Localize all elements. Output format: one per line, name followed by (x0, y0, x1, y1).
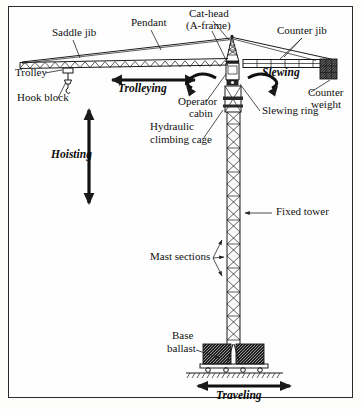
label-counter-jib: Counter jib (277, 24, 327, 36)
label-counter-wt-line2: weight (311, 98, 341, 110)
label-cat-head-line1: Cat-head (189, 7, 229, 19)
ground-hatch (186, 373, 283, 378)
base-ballast-blk (200, 344, 268, 372)
label-mast-sections: Mast sections (150, 250, 210, 262)
label-base-line1: Base (172, 329, 194, 341)
pendant-cables (22, 38, 231, 63)
label-fixed-tower: Fixed tower (276, 205, 329, 217)
label-operator-line1: Operator (178, 95, 217, 107)
counter-weight-blk (320, 59, 337, 79)
label-operator-line2: cabin (189, 107, 213, 119)
label-cat-head-line2: (A-frame) (186, 19, 231, 32)
label-trolleying: Trolleying (118, 82, 167, 95)
diagram-canvas: Saddle jib Pendant Cat-head (A-frame) Co… (0, 0, 361, 409)
tower-crane-diagram: Saddle jib Pendant Cat-head (A-frame) Co… (0, 0, 361, 409)
mast-lattice (227, 112, 240, 345)
label-saddle-jib: Saddle jib (52, 26, 97, 38)
operator-cabin-box (226, 61, 239, 81)
label-hoisting: Hoisting (50, 148, 92, 161)
label-hook-block: Hook block (17, 91, 69, 103)
label-counter-wt-line1: Counter (308, 86, 344, 98)
trolley-unit (63, 68, 73, 84)
slewing-ring-unit (227, 80, 238, 85)
label-base-line2: ballast (167, 342, 196, 354)
label-trolley: Trolley (15, 66, 47, 78)
label-traveling: Traveling (216, 389, 262, 402)
label-slewing: Slewing (262, 66, 300, 79)
label-hydraulic-line2: climbing cage (150, 133, 212, 145)
label-pendant: Pendant (131, 16, 166, 28)
climbing-cage-unit (223, 86, 243, 112)
label-hydraulic-line1: Hydraulic (150, 120, 194, 132)
